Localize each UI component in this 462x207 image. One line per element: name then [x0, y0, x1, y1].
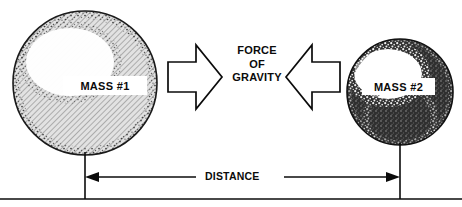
mass-2-sphere [347, 39, 453, 152]
force-arrow-right [168, 45, 222, 109]
mass-1-label: MASS #1 [63, 76, 147, 95]
force-line-2: OF [226, 58, 288, 72]
distance-label: DISTANCE [205, 170, 260, 182]
force-arrow-left [286, 45, 340, 109]
mass-2-label: MASS #2 [362, 78, 435, 95]
force-line-3: GRAVITY [226, 71, 288, 85]
diagram-canvas: MASS #1 MASS #2 FORCE OF GRAVITY DISTANC… [0, 0, 462, 207]
force-line-1: FORCE [226, 44, 288, 58]
force-of-gravity-label: FORCE OF GRAVITY [226, 44, 288, 85]
